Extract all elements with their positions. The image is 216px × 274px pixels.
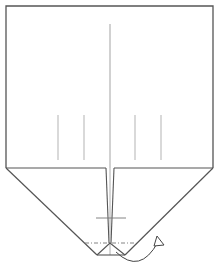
slit-right-edge — [111, 168, 114, 243]
bottom-triangle — [97, 243, 125, 255]
slit-left-edge — [106, 168, 109, 243]
left-diagonal-edge — [6, 168, 97, 255]
arrow-head-icon — [154, 236, 164, 246]
origami-diagram — [0, 0, 216, 274]
paper-top-edge — [6, 6, 213, 168]
diagram-svg — [0, 0, 216, 274]
right-diagonal-edge — [125, 168, 213, 255]
fold-arrow — [116, 242, 158, 261]
